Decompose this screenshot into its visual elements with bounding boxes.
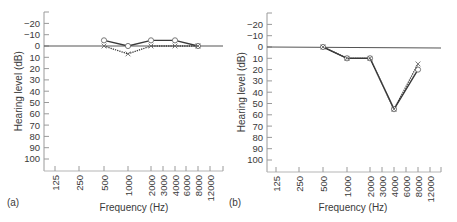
x-tick-label: 2000	[146, 175, 157, 196]
panel-label: (a)	[7, 197, 19, 208]
circle-marker-icon	[148, 38, 153, 43]
series-x-dotted	[321, 45, 421, 112]
y-tick-label: 50	[252, 98, 263, 109]
y-axis-title: Hearing level (dB)	[13, 51, 24, 131]
x-tick-label: 1000	[342, 176, 353, 197]
y-tick-label: 70	[252, 121, 263, 132]
y-tick-label: −20	[24, 18, 40, 29]
series-o-solid	[320, 44, 420, 111]
y-tick-label: −20	[247, 19, 263, 30]
y-tick-label: 90	[29, 142, 40, 153]
y-tick-label: 0	[258, 41, 263, 52]
y-tick-label: 30	[29, 74, 40, 85]
x-tick-label: 3000	[158, 175, 169, 196]
x-tick-label: 1000	[123, 175, 134, 196]
cross-marker-icon	[416, 62, 421, 67]
y-tick-label: 30	[252, 75, 263, 86]
audiogram-panel-a: −20−100102030405060708090100125250500100…	[7, 12, 223, 213]
audiogram-figure: −20−100102030405060708090100125250500100…	[0, 0, 457, 222]
zero-reference-line	[267, 47, 441, 48]
y-tick-label: 80	[29, 131, 40, 142]
x-tick-label: 4000	[389, 176, 400, 197]
y-tick-label: 100	[247, 154, 263, 165]
y-tick-label: 10	[252, 53, 263, 64]
x-tick-label: 500	[99, 175, 110, 191]
y-axis-title: Hearing level (dB)	[236, 52, 247, 132]
x-tick-label: 3000	[377, 176, 388, 197]
x-tick-label: 6000	[401, 176, 412, 197]
y-tick-label: −10	[247, 30, 263, 41]
y-tick-label: 80	[252, 132, 263, 143]
x-tick-label: 2000	[365, 176, 376, 197]
audiogram-panel-b: −20−100102030405060708090100125250500100…	[229, 13, 441, 213]
x-axis-title: Frequency (Hz)	[100, 202, 169, 213]
y-tick-label: 40	[29, 86, 40, 97]
x-tick-label: 8000	[193, 175, 204, 196]
x-tick-label: 8000	[413, 176, 424, 197]
x-tick-label: 250	[74, 175, 85, 191]
y-tick-label: −10	[24, 29, 40, 40]
y-tick-label: 90	[252, 143, 263, 154]
x-tick-label: 250	[294, 176, 305, 192]
x-tick-label: 125	[50, 175, 61, 191]
series-o-solid	[101, 38, 200, 49]
y-tick-label: 10	[29, 52, 40, 63]
y-tick-label: 70	[29, 120, 40, 131]
x-tick-label: 12000	[205, 175, 216, 201]
x-axis-title: Frequency (Hz)	[319, 202, 388, 213]
x-tick-label: 500	[318, 176, 329, 192]
panel-label: (b)	[229, 197, 241, 208]
y-tick-label: 40	[252, 87, 263, 98]
y-tick-label: 20	[252, 64, 263, 75]
x-tick-label: 4000	[170, 175, 181, 196]
y-tick-label: 50	[29, 97, 40, 108]
circle-marker-icon	[172, 38, 177, 43]
dotted-line	[104, 46, 198, 54]
circle-marker-icon	[125, 43, 130, 48]
x-tick-label: 6000	[181, 175, 192, 196]
circle-marker-icon	[101, 38, 106, 43]
y-tick-label: 60	[29, 108, 40, 119]
x-tick-label: 125	[271, 176, 282, 192]
y-tick-label: 60	[252, 109, 263, 120]
y-tick-label: 0	[35, 40, 40, 51]
y-tick-label: 20	[29, 63, 40, 74]
y-tick-label: 100	[24, 153, 40, 164]
x-tick-label: 12000	[425, 176, 436, 202]
